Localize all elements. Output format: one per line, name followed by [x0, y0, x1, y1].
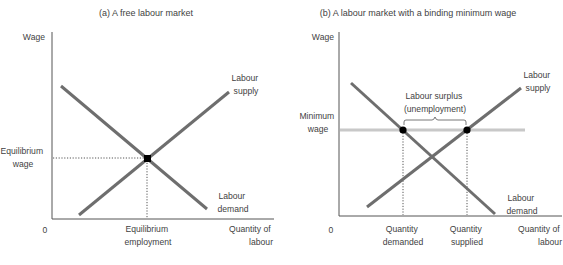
panel-b-quantity-supplied-point [463, 126, 470, 133]
panel-b-supply-label: Labour supply [523, 70, 552, 93]
panel-b-quantity-demanded-point [399, 126, 406, 133]
panel-b-title: (b) A labour market with a binding minim… [320, 8, 517, 18]
panel-b: (b) A labour market with a binding minim… [299, 8, 562, 247]
panel-a-title: (a) A free labour market [99, 8, 194, 18]
panel-b-quantity-supplied-label: Quantity supplied [450, 224, 484, 247]
panel-a-demand-label: Labour demand [217, 191, 248, 214]
panel-a-supply-curve [79, 92, 229, 215]
panel-a-x-axis-label: Quantity of labour [229, 224, 273, 247]
panel-a-equilibrium-wage-label: Equilibrium wage [1, 146, 46, 169]
panel-b-minimum-wage-label: Minimum wage [299, 111, 336, 134]
panel-b-surplus-label: Labour surplus (unemployment) [404, 91, 466, 114]
panel-b-y-axis-label: Wage [312, 32, 334, 42]
panel-a-equilibrium-employment-label: Equilibrium employment [125, 224, 172, 247]
panel-b-demand-label: Labour demand [506, 193, 537, 216]
panel-b-surplus-brace [404, 117, 466, 125]
panel-a-origin-label: 0 [43, 225, 48, 235]
panel-a: (a) A free labour market Wage 0 Labour s… [1, 8, 274, 247]
panel-b-origin-label: 0 [329, 225, 334, 235]
panel-a-y-axis-label: Wage [23, 32, 45, 42]
panel-b-x-axis-label: Quantity of labour [518, 224, 562, 247]
panel-a-supply-label: Labour supply [231, 73, 260, 96]
panel-b-quantity-demanded-label: Quantity demanded [383, 224, 424, 247]
panel-a-demand-curve [61, 86, 207, 209]
panel-b-demand-curve [351, 83, 495, 214]
panel-a-equilibrium-point [144, 155, 151, 162]
